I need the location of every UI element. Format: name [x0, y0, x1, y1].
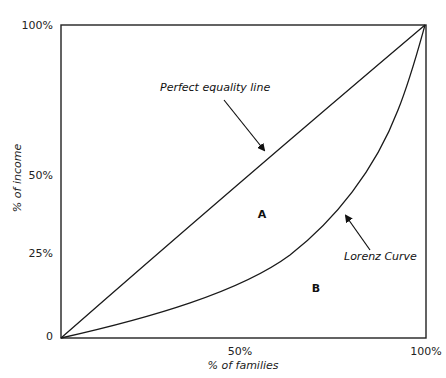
y-axis-title: % of income: [11, 144, 24, 213]
region-a-label: A: [258, 208, 267, 221]
x-axis-title: % of families: [207, 359, 278, 372]
lorenz-chart: 100% 50% 25% 0 50% 100% % of families % …: [0, 0, 446, 378]
y-tick-25: 25%: [29, 247, 53, 260]
y-tick-50: 50%: [29, 169, 53, 182]
x-tick-50: 50%: [228, 345, 252, 358]
y-tick-0: 0: [46, 330, 53, 343]
x-tick-100: 100%: [410, 345, 441, 358]
equality-line: [61, 25, 425, 338]
lorenz-arrow: [346, 216, 370, 250]
y-tick-100: 100%: [22, 19, 53, 32]
equality-annotation: Perfect equality line: [160, 81, 270, 94]
equality-arrow: [224, 100, 264, 150]
lorenz-annotation: Lorenz Curve: [344, 250, 417, 263]
region-b-label: B: [312, 282, 320, 295]
